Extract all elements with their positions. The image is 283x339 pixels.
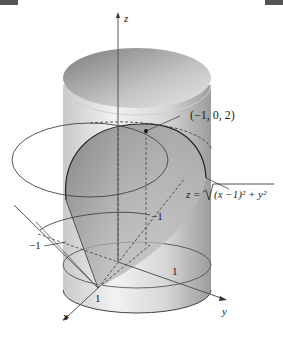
neg-one-label-inner: −1	[151, 210, 163, 222]
point-label: (−1, 0, 2)	[190, 108, 235, 122]
z-axis-arrow-icon	[116, 12, 120, 18]
y-axis-label: y	[221, 305, 227, 317]
x-tick-1: 1	[95, 292, 101, 304]
cylinder-cone-diagram: z y x 1 1 −1 −1 (−1, 0, 2) z = (x −1)² +…	[0, 0, 283, 339]
x-axis-label: x	[62, 310, 68, 322]
y-tick-1: 1	[172, 265, 178, 277]
neg-one-label-left: −1	[29, 239, 41, 251]
y-axis-arrow-icon	[219, 296, 227, 301]
z-axis-label: z	[123, 12, 129, 24]
equation-lhs: z =	[185, 188, 200, 200]
equation-radicand: (x −1)² + y²	[214, 188, 267, 201]
